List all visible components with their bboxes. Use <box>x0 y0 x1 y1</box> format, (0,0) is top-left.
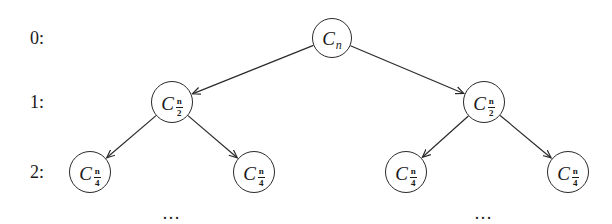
node-label: Cn4 <box>395 162 417 183</box>
fraction-numerator: n <box>258 167 265 178</box>
edge-arrow-root-l1b <box>350 46 463 94</box>
fraction-denominator: 4 <box>573 178 578 188</box>
tree-node-l2b: Cn4 <box>233 151 275 193</box>
node-base: C <box>322 29 335 48</box>
tree-node-root: Cn <box>312 18 352 58</box>
fraction-denominator: 2 <box>177 108 182 118</box>
tree-node-l2a: Cn4 <box>69 151 111 193</box>
node-label: Cn4 <box>557 162 579 183</box>
tree-node-l2c: Cn4 <box>385 151 427 193</box>
fraction-numerator: n <box>94 167 101 178</box>
fraction-numerator: n <box>572 167 579 178</box>
fraction-numerator: n <box>410 167 417 178</box>
level-label-2: 2: <box>30 163 44 181</box>
node-base: C <box>395 164 408 183</box>
ellipsis-left: … <box>162 204 182 222</box>
node-base: C <box>161 94 174 113</box>
node-base: C <box>243 164 256 183</box>
fraction-numerator: n <box>176 97 183 108</box>
level-label-1: 1: <box>30 93 44 111</box>
node-fraction-subscript: n4 <box>572 167 579 188</box>
edge-arrow-l1a-l2a <box>107 116 156 158</box>
fraction-numerator: n <box>488 97 495 108</box>
node-base: C <box>79 164 92 183</box>
node-fraction-subscript: n4 <box>94 167 101 188</box>
node-fraction-subscript: n2 <box>176 97 183 118</box>
edge-arrow-l1b-l2c <box>422 116 468 157</box>
edge-arrow-l1b-l2d <box>500 115 551 157</box>
node-label: Cn4 <box>79 162 101 183</box>
fraction-denominator: 4 <box>95 178 100 188</box>
tree-node-l2d: Cn4 <box>547 151 589 193</box>
fraction-denominator: 4 <box>259 178 264 188</box>
tree-node-l1a: Cn2 <box>151 81 193 123</box>
tree-node-l1b: Cn2 <box>463 81 505 123</box>
node-label: Cn2 <box>473 92 495 113</box>
node-base: C <box>557 164 570 183</box>
node-fraction-subscript: n2 <box>488 97 495 118</box>
node-label: Cn <box>322 29 342 48</box>
level-label-0: 0: <box>30 29 44 47</box>
recursion-tree-diagram: 0: 1: 2: CnCn2Cn2Cn4Cn4Cn4Cn4 … … <box>0 0 612 224</box>
fraction-denominator: 2 <box>489 108 494 118</box>
node-label: Cn2 <box>161 92 183 113</box>
node-subscript: n <box>336 39 342 51</box>
node-fraction-subscript: n4 <box>410 167 417 188</box>
node-label: Cn4 <box>243 162 265 183</box>
fraction-denominator: 4 <box>411 178 416 188</box>
node-base: C <box>473 94 486 113</box>
node-fraction-subscript: n4 <box>258 167 265 188</box>
edge-arrow-root-l1a <box>192 45 313 93</box>
ellipsis-right: … <box>474 204 494 222</box>
edge-arrow-l1a-l2b <box>188 116 237 158</box>
